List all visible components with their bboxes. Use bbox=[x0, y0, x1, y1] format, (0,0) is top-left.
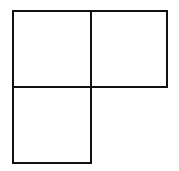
square-cell-bottom-left bbox=[12, 86, 92, 164]
square-cell-top-right bbox=[90, 10, 168, 88]
square-cell-top-left bbox=[12, 10, 92, 88]
